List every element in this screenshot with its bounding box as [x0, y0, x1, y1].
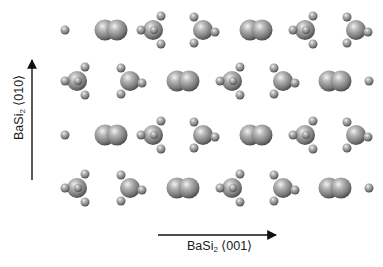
- large-atom: [252, 125, 273, 146]
- small-atom: [364, 133, 373, 142]
- small-atom: [270, 197, 279, 206]
- small-atom: [270, 90, 279, 99]
- small-atom: [302, 131, 310, 139]
- large-atom: [273, 178, 293, 198]
- x-axis-label: BaSi2 ⟨001⟩: [187, 238, 252, 254]
- small-atom: [216, 184, 225, 193]
- large-atom: [331, 178, 352, 199]
- small-atom: [291, 79, 300, 88]
- small-atom: [236, 63, 245, 72]
- small-atom: [291, 186, 300, 195]
- small-atom: [309, 117, 318, 126]
- small-atom: [302, 26, 310, 34]
- large-atom: [273, 71, 293, 91]
- small-atom: [61, 77, 70, 86]
- small-atom: [137, 26, 146, 35]
- small-atom: [309, 12, 318, 21]
- tetra-front-motif: [61, 170, 90, 207]
- small-atom: [309, 145, 318, 154]
- small-atom: [74, 77, 82, 85]
- large-atom: [193, 20, 213, 40]
- large-atom: [252, 20, 273, 41]
- tetra-front-motif: [137, 117, 166, 154]
- atom-lattice: [0, 0, 383, 267]
- tetra-side-motif: [270, 64, 300, 99]
- small-atom: [364, 28, 373, 37]
- dimer-motif: [95, 125, 128, 146]
- small-atom: [236, 198, 245, 207]
- small-atom: [117, 64, 126, 73]
- tetra-front-motif: [216, 170, 245, 207]
- tetra-side-motif: [117, 64, 147, 99]
- atom-motif: [61, 26, 70, 35]
- tetra-side-motif: [190, 13, 220, 48]
- small-atom: [157, 117, 166, 126]
- tetra-front-motif: [216, 63, 245, 100]
- tetra-side-motif: [343, 13, 373, 48]
- dimer-motif: [240, 20, 273, 41]
- tetra-front-motif: [137, 12, 166, 49]
- large-atom: [120, 71, 140, 91]
- small-atom: [216, 77, 225, 86]
- small-atom: [190, 13, 199, 22]
- small-atom: [343, 118, 352, 127]
- dimer-motif: [167, 178, 200, 199]
- small-atom: [190, 144, 199, 153]
- small-atom: [211, 133, 220, 142]
- tetra-side-motif: [190, 118, 220, 153]
- large-atom: [179, 178, 200, 199]
- small-atom: [150, 131, 158, 139]
- large-atom: [331, 71, 352, 92]
- crystal-structure-figure: BaSi2 ⟨010⟩ BaSi2 ⟨001⟩: [0, 0, 383, 267]
- small-atom: [211, 28, 220, 37]
- small-atom: [270, 64, 279, 73]
- small-atom: [81, 198, 90, 207]
- large-atom: [179, 71, 200, 92]
- small-atom: [74, 184, 82, 192]
- small-atom: [229, 77, 237, 85]
- small-atom: [138, 79, 147, 88]
- small-atom: [309, 40, 318, 49]
- small-atom: [343, 13, 352, 22]
- dimer-motif: [240, 125, 273, 146]
- small-atom: [236, 91, 245, 100]
- small-atom: [117, 197, 126, 206]
- small-atom: [190, 39, 199, 48]
- dimer-motif: [167, 71, 200, 92]
- tetra-front-motif: [61, 63, 90, 100]
- tetra-front-motif: [289, 117, 318, 154]
- dimer-motif: [319, 178, 352, 199]
- dimer-motif: [319, 71, 352, 92]
- atom-layer: [61, 12, 374, 207]
- small-atom: [270, 171, 279, 180]
- small-atom: [190, 118, 199, 127]
- large-atom: [120, 178, 140, 198]
- dimer-motif: [95, 20, 128, 41]
- tetra-side-motif: [270, 171, 300, 206]
- small-atom: [117, 171, 126, 180]
- large-atom: [346, 125, 366, 145]
- small-atom: [81, 91, 90, 100]
- atom-motif: [365, 77, 374, 86]
- small-atom: [157, 40, 166, 49]
- large-atom: [193, 125, 213, 145]
- small-atom: [343, 39, 352, 48]
- small-atom: [81, 170, 90, 179]
- small-atom: [61, 26, 70, 35]
- small-atom: [150, 26, 158, 34]
- small-atom: [236, 170, 245, 179]
- tetra-side-motif: [117, 171, 147, 206]
- small-atom: [61, 184, 70, 193]
- small-atom: [365, 184, 374, 193]
- atom-motif: [61, 131, 70, 140]
- small-atom: [157, 12, 166, 21]
- small-atom: [229, 184, 237, 192]
- small-atom: [137, 131, 146, 140]
- tetra-front-motif: [289, 12, 318, 49]
- small-atom: [365, 77, 374, 86]
- large-atom: [107, 20, 128, 41]
- small-atom: [117, 90, 126, 99]
- y-axis-label: BaSi2 ⟨010⟩: [11, 75, 27, 140]
- small-atom: [61, 131, 70, 140]
- tetra-side-motif: [343, 118, 373, 153]
